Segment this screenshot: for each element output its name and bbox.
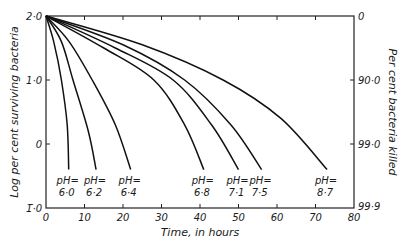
x-tick-label: 80: [348, 212, 361, 223]
curve-label-value: 8·7: [317, 187, 334, 198]
y-tick-label-right: 99·0: [358, 139, 380, 150]
x-tick-label: 70: [309, 212, 322, 223]
curve-label-ph: pH=: [56, 175, 79, 186]
y-axis-title-left: Log per cent surviving bacteria: [8, 26, 21, 198]
curve-labels: pH=6·0pH=6·2pH=6·4pH=6·8pH=7·1pH=7·5pH=8…: [56, 175, 338, 198]
curve-label-value: 6·0: [59, 187, 75, 198]
y-tick-label-right: 0: [358, 11, 364, 22]
bacteria-survival-chart: 01020304050607080 2·001·090·0099·01̄·099…: [0, 0, 404, 246]
curve-label-ph: pH=: [248, 175, 271, 186]
curve-label-ph: pH=: [225, 175, 248, 186]
curve-label-value: 7·5: [252, 187, 268, 198]
y-tick-label-right: 90·0: [358, 75, 380, 86]
x-tick-label: 10: [78, 212, 91, 223]
curve-label-value: 6·4: [121, 187, 137, 198]
y-tick-label-left: 0: [36, 139, 42, 150]
curve-71: [46, 16, 239, 170]
curve-label-value: 6·2: [86, 187, 102, 198]
x-tick-label: 40: [194, 212, 207, 223]
x-tick-label: 50: [232, 212, 245, 223]
curve-label-ph: pH=: [314, 175, 337, 186]
y-tick-label-left: 1·0: [26, 75, 42, 86]
curve-label-ph: pH=: [191, 175, 214, 186]
x-tick-label: 0: [43, 212, 49, 223]
y-axis-title-right: Per cent bacteria killed: [386, 49, 399, 177]
curve-label-ph: pH=: [83, 175, 106, 186]
curve-75: [46, 16, 262, 170]
curve-label-ph: pH=: [118, 175, 141, 186]
x-tick-label: 20: [117, 212, 130, 223]
curve-label-value: 6·8: [194, 187, 210, 198]
y-tick-label-left: 1̄·0: [26, 203, 42, 214]
curve-label-value: 7·1: [229, 187, 245, 198]
y-tick-label-left: 2·0: [26, 11, 42, 22]
x-axis-title: Time, in hours: [161, 226, 240, 239]
curve-60: [46, 16, 69, 170]
y-tick-label-right: 99·9: [358, 201, 380, 212]
x-tick-label: 60: [271, 212, 284, 223]
curves: [46, 16, 327, 170]
x-tick-label: 30: [155, 212, 168, 223]
